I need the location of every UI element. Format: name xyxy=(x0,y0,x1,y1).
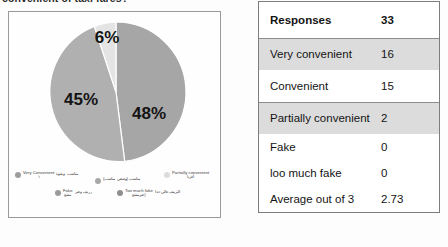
legend-swatch-icon xyxy=(117,190,123,196)
legend-label-ar-secondary: مقنع xyxy=(63,193,73,197)
table-row: Convenient15 xyxy=(259,70,439,102)
table-cell-label: Very convenient xyxy=(259,38,381,70)
legend-label-ar: مناسب (وضعي مناسب) xyxy=(103,177,140,181)
table-cell-value: 2 xyxy=(381,102,439,134)
pie-chart-legend: Very Convenient ١ مناسب وبقوة مناسب (وضع… xyxy=(9,169,222,213)
table-row: Partially convenient2 xyxy=(259,102,439,134)
legend-row-bottom: Fake مقنع زريف وغير Too much fake (غيرمق… xyxy=(9,185,222,201)
table-cell-label: Responses xyxy=(259,2,381,38)
pie-chart-panel: 48% 45% 6% Very Convenient ١ مناسب وبقوة… xyxy=(8,11,221,218)
table-row: Fake0 xyxy=(259,134,439,160)
table-cell-label: Partially convenient xyxy=(259,102,381,134)
figure-caption-text: convenient of taxi fares? xyxy=(2,0,128,4)
legend-item-fake[interactable]: Fake مقنع زريف وغير xyxy=(55,189,92,198)
legend-label-ar-secondary: ١ xyxy=(23,175,54,179)
table-row: Very convenient16 xyxy=(259,38,439,70)
table-cell-label: Average out of 3 xyxy=(259,186,381,212)
legend-label-ar: التزييف عالي جدا xyxy=(155,189,180,194)
table-cell-value: 0 xyxy=(381,160,439,186)
table-cell-value: 15 xyxy=(381,70,439,102)
pie-label-very-convenient: 48% xyxy=(131,104,165,123)
table-row: loo much fake0 xyxy=(259,160,439,186)
legend-label-ar: مناسب وبقوة xyxy=(56,171,77,176)
table-cell-label: Fake xyxy=(259,134,381,160)
table-cell-label: loo much fake xyxy=(259,160,381,186)
pie-label-partially-convenient: 6% xyxy=(94,28,119,47)
legend-item-convenient[interactable]: مناسب (وضعي مناسب) xyxy=(95,177,140,184)
results-table: Responses33Very convenient16Convenient15… xyxy=(259,2,439,212)
legend-item-very-convenient[interactable]: Very Convenient ١ مناسب وبقوة xyxy=(15,171,78,180)
legend-label-ar-secondary: أقربا xyxy=(172,175,209,179)
pie-chart-svg: 48% 45% 6% xyxy=(41,18,191,166)
legend-label-ar: زريف وغير xyxy=(75,189,92,194)
table-cell-value: 0 xyxy=(381,134,439,160)
legend-swatch-icon xyxy=(15,172,21,178)
legend-swatch-icon xyxy=(95,178,101,184)
table-cell-value: 2.73 xyxy=(381,186,439,212)
table-row: Responses33 xyxy=(259,2,439,38)
results-table-panel: Responses33Very convenient16Convenient15… xyxy=(258,1,440,213)
table-cell-label: Convenient xyxy=(259,70,381,102)
legend-swatch-icon xyxy=(55,190,61,196)
figure-caption: convenient of taxi fares? xyxy=(0,0,230,7)
legend-swatch-icon xyxy=(164,172,170,178)
legend-item-too-much-fake[interactable]: Too much fake (غيرمقنع التزييف عالي جدا xyxy=(117,189,180,198)
pie-slice-very-convenient xyxy=(116,22,186,161)
table-row: Average out of 32.73 xyxy=(259,186,439,212)
table-cell-value: 16 xyxy=(381,38,439,70)
table-cell-value: 33 xyxy=(381,2,439,38)
pie-chart-area: 48% 45% 6% xyxy=(9,12,222,172)
legend-row-top: Very Convenient ١ مناسب وبقوة مناسب (وضع… xyxy=(9,169,222,185)
pie-label-convenient: 45% xyxy=(63,90,97,109)
legend-item-partially-convenient[interactable]: Partially convenient أقربا xyxy=(164,171,209,180)
legend-label-ar-secondary: (غيرمقنع xyxy=(125,193,153,197)
